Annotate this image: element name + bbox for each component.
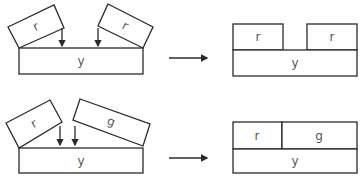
block-label: r bbox=[255, 129, 260, 143]
diagram-canvas: y r r r r y y r g r g y bbox=[0, 0, 363, 180]
block-label: r bbox=[330, 30, 335, 44]
base-label: y bbox=[291, 56, 298, 70]
base-label: y bbox=[291, 154, 298, 168]
block-label: g bbox=[315, 129, 323, 143]
base-label: y bbox=[77, 154, 84, 168]
row2-before: y r g bbox=[6, 99, 150, 173]
row2-after: r g y bbox=[233, 122, 357, 173]
row1-after: r r y bbox=[233, 24, 357, 76]
base-label: y bbox=[77, 54, 84, 68]
row1-before: y r r bbox=[8, 4, 153, 74]
block-label: r bbox=[256, 30, 261, 44]
